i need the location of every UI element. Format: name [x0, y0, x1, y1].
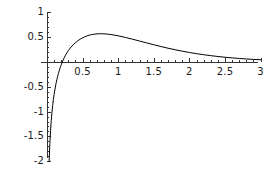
y-tick-label: -1.5 — [24, 131, 44, 141]
y-tick-label: 1 — [37, 7, 44, 17]
x-tick-label: 3 — [257, 67, 264, 77]
x-tick-label: 2.5 — [217, 67, 234, 77]
x-tick-label: 0.5 — [74, 67, 91, 77]
y-tick-label: -1 — [34, 107, 44, 117]
data-series-line — [49, 34, 260, 161]
y-tick-label: 0.5 — [27, 32, 44, 42]
data-series-group — [49, 34, 260, 161]
x-tick-label: 1 — [115, 67, 122, 77]
x-axis-ticks — [48, 58, 262, 62]
y-tick-label: -2 — [34, 156, 44, 166]
axes-group — [41, 12, 258, 158]
plot-figure: 0.511.522.53 10.5-0.5-1-1.5-2 — [0, 0, 264, 172]
x-tick-label: 2 — [186, 67, 193, 77]
y-tick-label: -0.5 — [24, 82, 44, 92]
x-tick-label: 1.5 — [146, 67, 163, 77]
